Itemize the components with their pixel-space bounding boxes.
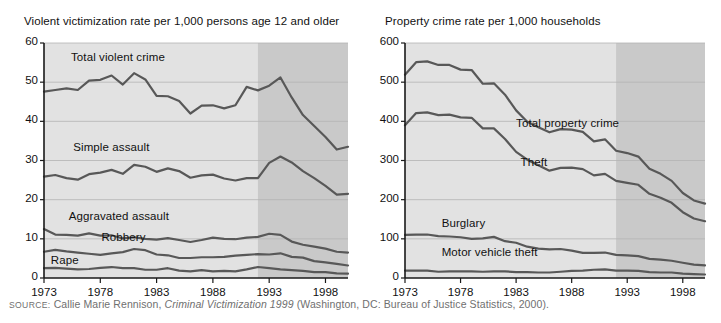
plot-area-property: 0100200300400500600197319781983198819931… [360, 0, 721, 300]
plot-area-violent: 0102030405060197319781983198819931998Tot… [0, 0, 360, 300]
x-axis-tick-label: 1993 [603, 286, 651, 298]
y-axis-tick-label: 400 [363, 113, 399, 125]
y-axis-tick-label: 40 [2, 113, 38, 125]
y-axis-tick-label: 0 [363, 270, 399, 282]
series-label-theft: Theft [521, 156, 548, 168]
y-axis-tick-label: 200 [363, 192, 399, 204]
y-axis-tick-label: 50 [2, 74, 38, 86]
x-axis-tick-label: 1988 [189, 286, 237, 298]
x-axis-tick-label: 1983 [492, 286, 540, 298]
x-axis-tick-label: 1998 [301, 286, 349, 298]
x-axis-tick-label: 1993 [245, 286, 293, 298]
series-label-motor-vehicle-theft: Motor vehicle theft [442, 246, 538, 258]
series-label-robbery: Robbery [101, 231, 145, 243]
series-label-total-violent-crime: Total violent crime [71, 51, 165, 63]
x-axis-tick-label: 1973 [20, 286, 68, 298]
y-axis-tick-label: 100 [363, 231, 399, 243]
series-label-rape: Rape [51, 254, 79, 266]
source-note: SOURCE: Callie Marie Rennison, Criminal … [9, 298, 549, 310]
chart-panel-violent: Violent victimization rate per 1,000 per… [0, 0, 360, 300]
y-axis-tick-label: 30 [2, 153, 38, 165]
series-label-total-property-crime: Total property crime [516, 117, 619, 129]
x-axis-tick-label: 1998 [659, 286, 707, 298]
x-axis-tick-label: 1983 [133, 286, 181, 298]
source-label: SOURCE: [9, 300, 51, 310]
y-axis-tick-label: 20 [2, 192, 38, 204]
x-axis-tick-label: 1978 [437, 286, 485, 298]
y-axis-tick-label: 300 [363, 153, 399, 165]
chart-panel-property: Property crime rate per 1,000 households… [360, 0, 721, 300]
series-label-simple-assault: Simple assault [73, 141, 149, 153]
series-label-aggravated-assault: Aggravated assault [69, 210, 169, 222]
source-text-before: Callie Marie Rennison, [51, 298, 165, 310]
y-axis-tick-label: 600 [363, 35, 399, 47]
series-label-burglary: Burglary [442, 217, 486, 229]
source-title-italic: Criminal Victimization 1999 [164, 298, 293, 310]
y-axis-tick-label: 10 [2, 231, 38, 243]
y-axis-tick-label: 60 [2, 35, 38, 47]
figure-root: Violent victimization rate per 1,000 per… [0, 0, 721, 323]
x-axis-tick-label: 1978 [76, 286, 124, 298]
x-axis-tick-label: 1973 [381, 286, 429, 298]
y-axis-tick-label: 500 [363, 74, 399, 86]
x-axis-tick-label: 1988 [548, 286, 596, 298]
source-text-after: (Washington, DC: Bureau of Justice Stati… [294, 298, 549, 310]
chart-svg-property [360, 0, 721, 300]
y-axis-tick-label: 0 [2, 270, 38, 282]
